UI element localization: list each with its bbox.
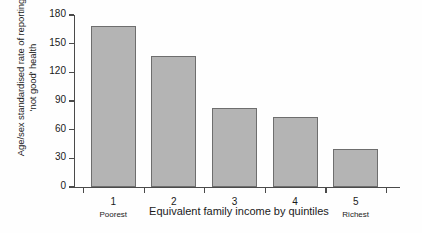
y-axis-tick: 90 — [69, 100, 74, 101]
x-axis-tick — [386, 188, 387, 193]
y-axis-title: Age/sex standardised rate of reporting '… — [0, 0, 48, 196]
y-axis-tick: 60 — [69, 129, 74, 130]
y-axis-tick-label: 180 — [49, 8, 66, 20]
bar-chart-figure: Age/sex standardised rate of reporting '… — [0, 0, 422, 233]
y-axis-tick: 0 — [69, 186, 74, 187]
y-axis-tick-label: 60 — [55, 123, 66, 135]
bar — [212, 108, 257, 187]
y-axis-title-line-2: 'not good' health — [26, 0, 38, 168]
y-axis-title-line-1: Age/sex standardised rate of reporting — [15, 0, 27, 168]
y-axis-title-text: Age/sex standardised rate of reporting '… — [15, 0, 38, 168]
y-axis-tick-label: 150 — [49, 37, 66, 49]
y-axis-tick-label: 120 — [49, 65, 66, 77]
bar — [333, 149, 378, 187]
y-axis-tick-label: 0 — [60, 180, 66, 192]
y-axis-tick: 150 — [69, 43, 74, 44]
bar — [151, 56, 196, 187]
y-axis-line — [74, 15, 75, 187]
x-axis-line — [74, 187, 400, 188]
bar — [273, 117, 318, 187]
x-axis-tick — [83, 188, 84, 193]
y-axis-tick-label: 30 — [55, 151, 66, 163]
y-axis-tick: 120 — [69, 72, 74, 73]
x-axis-tick — [325, 188, 326, 193]
y-axis-tick: 180 — [69, 14, 74, 15]
y-axis-tick-label: 90 — [55, 94, 66, 106]
y-axis-tick: 30 — [69, 158, 74, 159]
x-axis-tick — [144, 188, 145, 193]
plot-area: 0306090120150180 1Poorest2345Richest — [74, 10, 404, 190]
x-axis-title: Equivalent family income by quintiles — [74, 205, 404, 218]
x-axis-tick — [204, 188, 205, 193]
bar — [91, 26, 136, 187]
x-axis-tick — [265, 188, 266, 193]
